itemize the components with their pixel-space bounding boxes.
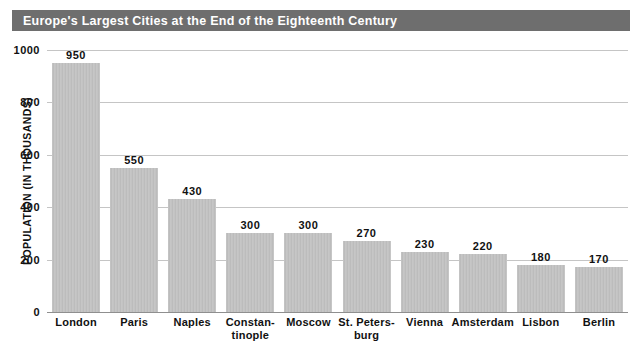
bar [168, 199, 216, 312]
x-axis-label-line: Amsterdam [451, 316, 515, 329]
bar [575, 267, 623, 312]
bar-value-label: 300 [284, 219, 332, 231]
x-axis-label-line: Lisbon [509, 316, 573, 329]
x-axis-label: Amsterdam [451, 316, 515, 329]
x-axis-label: Moscow [276, 316, 340, 329]
x-axis-label: Berlin [567, 316, 631, 329]
y-tick-label-400: 400 [20, 201, 40, 213]
y-tick-label-200: 200 [20, 254, 40, 266]
bar-value-label: 550 [110, 154, 158, 166]
x-axis-label-line: tinople [218, 329, 282, 342]
bar [226, 233, 274, 312]
x-axis-label: Naples [160, 316, 224, 329]
bar-value-label: 170 [575, 253, 623, 265]
bar-value-label: 950 [52, 49, 100, 61]
bar-value-label: 230 [401, 238, 449, 250]
x-axis-label-line: London [44, 316, 108, 329]
x-axis-label-line: burg [335, 329, 399, 342]
gridline-0: 0 [47, 312, 628, 313]
x-axis-label-line: Berlin [567, 316, 631, 329]
x-axis-label: London [44, 316, 108, 329]
x-axis-label-line: Naples [160, 316, 224, 329]
x-axis-label-line: Vienna [393, 316, 457, 329]
x-axis-label-line: Moscow [276, 316, 340, 329]
y-axis-label: POPULATION (IN THOUSANDS) [21, 81, 33, 281]
bar [517, 265, 565, 312]
bar [401, 252, 449, 312]
x-axis-label: St. Peters-burg [335, 316, 399, 342]
y-tick-label-0: 0 [33, 306, 40, 318]
bar [52, 63, 100, 312]
x-axis-label-line: St. Peters- [335, 316, 399, 329]
x-axis-label: Vienna [393, 316, 457, 329]
x-axis-label: Paris [102, 316, 166, 329]
bar-value-label: 220 [459, 240, 507, 252]
bar-series: 950550430300300270230220180170 [47, 50, 628, 312]
bar-value-label: 430 [168, 185, 216, 197]
x-axis-label: Lisbon [509, 316, 573, 329]
bar [284, 233, 332, 312]
x-axis-label-line: Paris [102, 316, 166, 329]
bar-value-label: 270 [343, 227, 391, 239]
bar [343, 241, 391, 312]
bar-value-label: 300 [226, 219, 274, 231]
bar-chart: POPULATION (IN THOUSANDS) 02004006008001… [0, 0, 642, 353]
bar [110, 168, 158, 312]
y-tick-label-1000: 1000 [14, 44, 40, 56]
bar-value-label: 180 [517, 251, 565, 263]
x-axis-label-line: Constan- [218, 316, 282, 329]
x-axis-label: Constan-tinople [218, 316, 282, 342]
x-axis-labels: LondonParisNaplesConstan-tinopleMoscowSt… [47, 316, 628, 352]
plot-area: 02004006008001000 9505504303003002702302… [47, 50, 628, 312]
bar [459, 254, 507, 312]
chart-screenshot: Europe's Largest Cities at the End of th… [0, 0, 642, 353]
y-tick-label-800: 800 [20, 96, 40, 108]
y-tick-label-600: 600 [20, 149, 40, 161]
